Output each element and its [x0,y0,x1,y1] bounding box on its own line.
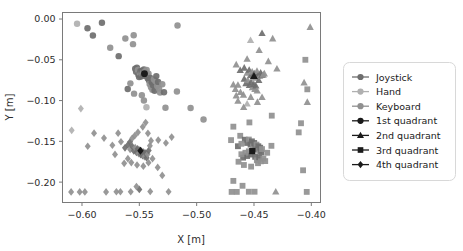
data-point [229,189,235,195]
data-point [256,46,263,53]
data-point [101,134,107,142]
data-point [200,116,206,122]
data-point [78,105,84,113]
x-axis-ticks: −0.60−0.55−0.50−0.45−0.40 [67,203,325,220]
data-point [161,89,167,95]
data-point [246,120,252,126]
data-point [153,73,159,79]
data-point [269,143,275,149]
data-point [115,53,121,59]
data-point [91,129,97,137]
data-point [155,164,161,172]
legend: JoystickHandKeyboard1st quadrant2nd quad… [344,63,456,181]
legend-marker-circle-icon [357,103,363,109]
data-point [307,23,314,30]
data-point [163,139,169,147]
data-point [169,133,175,141]
data-point [247,36,254,43]
data-point [121,160,127,168]
data-point [255,160,261,166]
data-point [174,22,180,28]
data-point [174,88,180,94]
data-point [140,162,146,170]
data-point [118,138,124,146]
data-point [139,92,145,98]
data-point [130,41,136,47]
legend-label: Joystick [375,72,413,83]
series-3rd-quadrant [228,57,310,195]
data-point [273,65,280,72]
data-point [241,162,247,168]
data-point [252,189,258,195]
series-1st-quadrant [74,19,207,122]
data-point [258,93,265,100]
data-point [115,129,121,137]
data-point [159,172,165,180]
data-point [69,126,75,134]
data-point [122,35,128,41]
data-point [99,19,105,25]
data-point [234,189,240,195]
legend-marker-circle-icon [357,118,363,124]
data-point [68,188,74,196]
data-point [262,158,268,164]
y-tick-label: −0.10 [26,95,55,106]
data-point [264,150,270,156]
data-point [155,136,161,144]
y-axis-label: Y [m] [4,93,15,121]
data-point [298,120,304,126]
data-point [243,55,250,62]
data-point [143,104,149,110]
data-point [103,188,109,196]
x-tick-label: −0.50 [182,209,211,220]
data-point [228,137,234,143]
data-point [90,32,96,38]
data-point [302,57,308,63]
data-point [240,183,246,189]
data-point [236,159,242,165]
data-point [128,188,134,196]
data-point [131,90,137,96]
data-point [265,58,272,65]
data-point [127,80,133,86]
data-point [304,86,310,92]
data-point [145,130,151,138]
data-point [147,188,153,196]
data-point [130,32,136,38]
legend-label: Keyboard [376,101,421,112]
data-point [272,188,279,195]
cluster-centroid-marker [141,70,148,77]
data-points-layer [68,19,314,195]
scatter-plot-figure: −0.60−0.55−0.50−0.45−0.40 0.00−0.05−0.10… [0,0,463,251]
data-point [304,98,311,105]
data-point [134,161,140,169]
x-tick-label: −0.55 [125,209,154,220]
data-point [125,86,131,92]
legend-marker-circle-icon [357,74,363,80]
legend-label: Hand [376,86,401,97]
data-point [238,151,244,157]
series-4th-quadrant [68,105,175,196]
data-point [304,189,310,195]
data-point [248,164,254,170]
y-axis-ticks: 0.00−0.05−0.10−0.15−0.20 [26,13,62,187]
x-axis-label: X [m] [177,234,205,245]
data-point [247,93,254,100]
data-point [259,146,265,152]
plot-canvas: −0.60−0.55−0.50−0.45−0.40 0.00−0.05−0.10… [0,0,463,251]
data-point [77,188,83,196]
data-point [233,61,240,68]
y-tick-label: −0.05 [26,54,55,65]
data-point [300,79,307,86]
y-tick-label: 0.00 [34,13,55,24]
x-tick-label: −0.60 [67,209,96,220]
data-point [166,188,172,196]
x-tick-label: −0.45 [239,209,268,220]
data-point [230,124,236,130]
legend-label: 2nd quadrant [376,130,441,141]
data-point [230,81,237,88]
data-point [238,141,244,147]
data-point [82,188,88,196]
data-point [84,25,90,31]
cluster-centroid-marker [249,148,255,154]
